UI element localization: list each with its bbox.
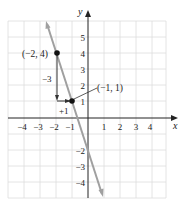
point-b-leader (74, 88, 97, 99)
y-axis-arrow-icon (85, 10, 91, 17)
point-b (69, 98, 75, 104)
chart: x y −4 −3 −2 −1 1 2 3 4 5 4 3 2 1 −2 −3 … (0, 0, 185, 206)
grid (8, 21, 166, 198)
x-tick: 3 (134, 122, 139, 132)
point-b-label: (−1, 1) (97, 83, 123, 94)
line-arrow-bottom-icon (99, 189, 104, 198)
y-tick: 4 (81, 49, 86, 59)
y-axis-label: y (77, 6, 83, 17)
x-tick: 2 (118, 122, 123, 132)
x-tick: −1 (65, 122, 75, 132)
run-label: +1 (59, 106, 69, 116)
point-a (54, 50, 60, 56)
x-tick: 4 (148, 122, 153, 132)
x-tick-labels: −4 −3 −2 −1 1 2 3 4 (17, 122, 153, 132)
x-tick: −4 (17, 122, 27, 132)
y-tick: −2 (75, 146, 85, 156)
y-tick-labels: 5 4 3 2 1 −2 −3 −4 (75, 33, 85, 188)
x-tick: −3 (33, 122, 43, 132)
y-tick: −4 (75, 178, 85, 188)
rise-label: −3 (42, 74, 52, 84)
x-tick: −2 (49, 122, 59, 132)
axes (8, 14, 174, 198)
y-tick: 1 (81, 97, 86, 107)
line-arrow-top-icon (46, 21, 51, 29)
point-a-label: (−2, 4) (22, 49, 48, 60)
y-tick: 5 (81, 33, 86, 43)
y-tick: 2 (81, 81, 86, 91)
x-tick: 1 (102, 122, 107, 132)
y-tick: 3 (81, 65, 86, 75)
x-axis-label: x (172, 120, 178, 131)
y-tick: −3 (75, 162, 85, 172)
